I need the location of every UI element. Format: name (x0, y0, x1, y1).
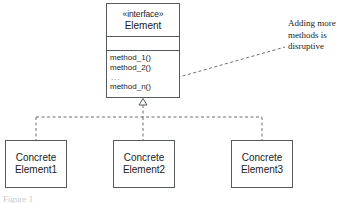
interface-method-2: method_2() (110, 63, 179, 73)
interface-methods-ellipsis: ... (110, 73, 179, 82)
note-box[interactable]: Adding more methods is disruptive (285, 16, 352, 57)
interface-class-box[interactable]: «interface» Element method_1() method_2(… (106, 3, 180, 98)
concrete-element-1-box[interactable]: Concrete Element1 (5, 140, 67, 188)
concrete-element-2-line2: Element2 (123, 164, 165, 176)
interface-stereotype-label: «interface» (123, 9, 164, 20)
interface-name-label: Element (125, 20, 162, 32)
concrete-element-3-line2: Element3 (241, 164, 283, 176)
concrete-element-2-box[interactable]: Concrete Element2 (113, 140, 175, 188)
interface-method-n: method_n() (110, 82, 179, 92)
realization-arrowhead (139, 99, 147, 106)
concrete-element-2-line1: Concrete (124, 152, 165, 164)
concrete-element-3-line1: Concrete (242, 152, 283, 164)
concrete-element-1-line1: Concrete (16, 152, 57, 164)
figure-caption: Figure 1 (3, 194, 33, 203)
concrete-element-3-box[interactable]: Concrete Element3 (231, 140, 293, 188)
interface-title-compartment: «interface» Element (107, 4, 179, 37)
uml-diagram-canvas: «interface» Element method_1() method_2(… (0, 0, 354, 203)
note-text: Adding more methods is disruptive (288, 18, 348, 53)
concrete-element-1-line2: Element1 (15, 164, 57, 176)
interface-method-1: method_1() (110, 53, 179, 63)
interface-attributes-compartment (107, 37, 179, 51)
interface-methods-compartment: method_1() method_2() ... method_n() (107, 51, 179, 98)
note-anchor-line (172, 47, 285, 79)
